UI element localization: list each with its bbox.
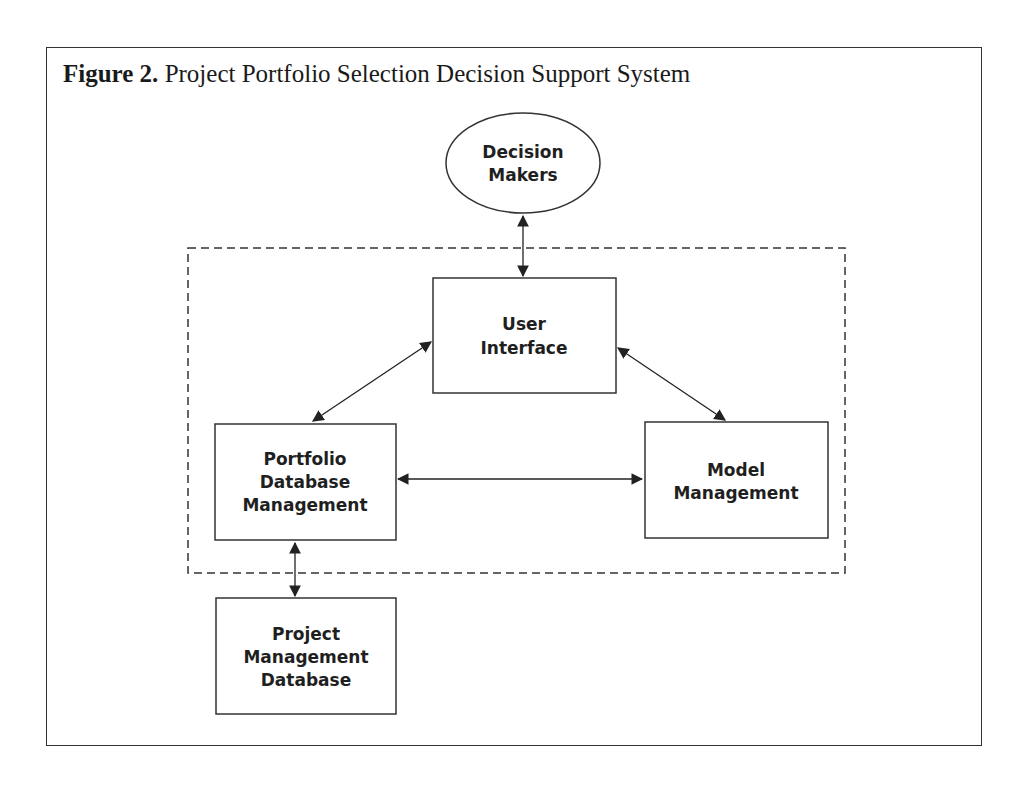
node-label: Model [707, 460, 765, 480]
node-label: Management [673, 483, 798, 503]
node-label: Management [243, 647, 368, 667]
node-project-management-database: Project Management Database [216, 598, 396, 714]
node-label: User [502, 314, 546, 334]
node-model-management: Model Management [645, 422, 828, 538]
arrow-user-interface-model [618, 348, 725, 420]
node-label: Project [272, 624, 340, 644]
node-label: Portfolio [263, 449, 346, 469]
node-label: Database [260, 472, 350, 492]
node-label: Database [261, 670, 351, 690]
node-user-interface: User Interface [433, 278, 616, 393]
diagram-canvas: Decision Makers User Interface Portfolio… [0, 0, 1032, 792]
node-label: Management [242, 495, 367, 515]
node-portfolio-database-management: Portfolio Database Management [215, 424, 396, 540]
node-label: Interface [481, 338, 568, 358]
node-decision-makers: Decision Makers [446, 113, 600, 213]
arrow-user-interface-portfolio [313, 342, 431, 421]
node-label: Decision [482, 142, 563, 162]
node-label: Makers [488, 165, 557, 185]
